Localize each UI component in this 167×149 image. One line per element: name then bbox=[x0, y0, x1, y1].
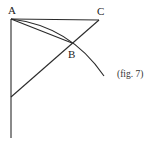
label-b: B bbox=[68, 48, 75, 60]
label-a: A bbox=[8, 4, 16, 16]
line-ac bbox=[11, 19, 99, 20]
figure-caption: (fig. 7) bbox=[117, 69, 143, 80]
chord-ab bbox=[11, 19, 72, 43]
geometry-figure: A C B (fig. 7) bbox=[0, 0, 167, 149]
label-c: C bbox=[97, 5, 104, 17]
